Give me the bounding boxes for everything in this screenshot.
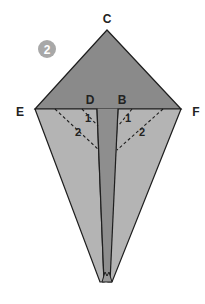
fold-number-left-2: 2 bbox=[75, 126, 81, 138]
fold-number-right-1: 1 bbox=[125, 112, 131, 124]
label-f: F bbox=[192, 105, 199, 119]
fold-number-right-2: 2 bbox=[139, 126, 145, 138]
fold-number-left-1: 1 bbox=[85, 112, 91, 124]
label-b: B bbox=[118, 93, 127, 107]
label-c: C bbox=[103, 12, 112, 26]
left-flap bbox=[35, 109, 104, 282]
label-d: D bbox=[86, 93, 95, 107]
origami-diagram: 2 C E F D B 1 2 1 2 bbox=[0, 0, 205, 304]
label-e: E bbox=[16, 105, 24, 119]
step-number: 2 bbox=[44, 43, 51, 57]
top-triangle bbox=[35, 30, 181, 109]
